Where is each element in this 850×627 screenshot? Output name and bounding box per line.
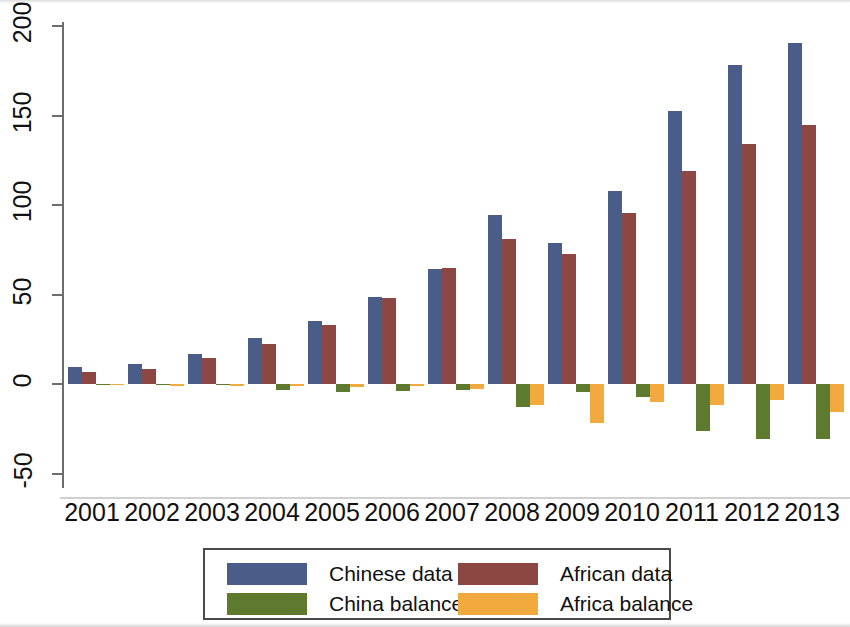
bar-2005-chinese-data <box>308 321 322 384</box>
bar-2012-chinese-data <box>728 65 742 384</box>
scan-artifact-bottom <box>0 623 850 627</box>
x-axis-label-2004: 2004 <box>242 498 302 527</box>
bar-2002-chinese-data <box>128 364 142 384</box>
bar-2002-china-balance <box>156 384 170 385</box>
legend-label-africa-balance: Africa balance <box>560 592 693 616</box>
plot-area <box>62 18 842 488</box>
zero-baseline <box>64 383 844 384</box>
bar-2013-african-data <box>802 125 816 384</box>
bar-2011-africa-balance <box>710 384 724 405</box>
bar-2013-africa-balance <box>830 384 844 412</box>
bar-2011-african-data <box>682 171 696 384</box>
bar-2011-chinese-data <box>668 111 682 384</box>
legend-item-china-balance: China balance <box>227 592 463 616</box>
bar-2003-chinese-data <box>188 354 202 384</box>
bar-2006-africa-balance <box>410 384 424 386</box>
x-axis-label-2007: 2007 <box>422 498 482 527</box>
bar-2004-africa-balance <box>290 384 304 386</box>
legend-item-africa-balance: Africa balance <box>458 592 693 616</box>
bar-2008-chinese-data <box>488 215 502 384</box>
legend-item-chinese-data: Chinese data <box>227 562 453 586</box>
bar-2001-chinese-data <box>68 367 82 384</box>
legend-label-african-data: African data <box>560 562 672 586</box>
bar-2012-africa-balance <box>770 384 784 400</box>
bar-2006-chinese-data <box>368 297 382 384</box>
bar-2002-africa-balance <box>170 384 184 386</box>
x-axis-label-2009: 2009 <box>542 498 602 527</box>
bar-2007-china-balance <box>456 384 470 390</box>
x-axis-label-2005: 2005 <box>302 498 362 527</box>
bar-2005-china-balance <box>336 384 350 392</box>
bar-2003-african-data <box>202 358 216 384</box>
legend-swatch-africa-balance <box>458 593 538 615</box>
bar-2001-africa-balance <box>110 384 124 385</box>
y-axis-tick-label: 50 <box>0 277 46 306</box>
bar-chart: -50050100150200 200120022003200420052006… <box>0 0 850 627</box>
legend-label-china-balance: China balance <box>329 592 463 616</box>
bar-2003-africa-balance <box>230 384 244 386</box>
x-axis-label-2001: 2001 <box>62 498 122 527</box>
bar-2010-china-balance <box>636 384 650 397</box>
bar-2009-china-balance <box>576 384 590 392</box>
bar-2006-china-balance <box>396 384 410 391</box>
bar-2012-african-data <box>742 144 756 384</box>
bar-2007-africa-balance <box>470 384 484 389</box>
bar-2010-africa-balance <box>650 384 664 402</box>
chart-legend: Chinese data African data China balance … <box>203 548 671 620</box>
scan-artifact-top <box>0 0 850 3</box>
legend-swatch-china-balance <box>227 593 307 615</box>
bar-2008-africa-balance <box>530 384 544 405</box>
bar-2001-china-balance <box>96 384 110 385</box>
bar-2012-china-balance <box>756 384 770 439</box>
legend-swatch-african-data <box>458 563 538 585</box>
x-axis-label-2011: 2011 <box>662 498 722 527</box>
y-axis-tick-label: 100 <box>0 187 46 216</box>
x-axis-label-2008: 2008 <box>482 498 542 527</box>
bar-2010-african-data <box>622 213 636 384</box>
bar-2005-african-data <box>322 325 336 384</box>
legend-item-african-data: African data <box>458 562 672 586</box>
bar-2002-african-data <box>142 369 156 384</box>
x-axis-label-2006: 2006 <box>362 498 422 527</box>
x-axis-label-2013: 2013 <box>782 498 842 527</box>
y-axis-tick-label: 0 <box>0 366 46 395</box>
bar-2010-chinese-data <box>608 191 622 384</box>
bar-2006-african-data <box>382 298 396 384</box>
bar-2004-african-data <box>262 344 276 384</box>
bar-2008-african-data <box>502 239 516 384</box>
x-axis-labels: 2001200220032004200520062007200820092010… <box>62 498 850 534</box>
bar-2009-chinese-data <box>548 243 562 384</box>
bar-2013-chinese-data <box>788 43 802 384</box>
bar-2007-chinese-data <box>428 269 442 384</box>
bar-2004-china-balance <box>276 384 290 390</box>
bar-2003-china-balance <box>216 384 230 385</box>
bar-2007-african-data <box>442 268 456 384</box>
bar-2011-china-balance <box>696 384 710 431</box>
x-axis-label-2010: 2010 <box>602 498 662 527</box>
bar-2004-chinese-data <box>248 338 262 384</box>
bar-2009-africa-balance <box>590 384 604 423</box>
y-axis-tick-label: -50 <box>0 456 46 485</box>
legend-label-chinese-data: Chinese data <box>329 562 453 586</box>
bar-2009-african-data <box>562 254 576 384</box>
y-axis-tick-label: 200 <box>0 8 46 37</box>
bar-2013-china-balance <box>816 384 830 439</box>
y-axis-tick-label: 150 <box>0 98 46 127</box>
legend-swatch-chinese-data <box>227 563 307 585</box>
x-axis-label-2002: 2002 <box>122 498 182 527</box>
bar-2005-africa-balance <box>350 384 364 387</box>
bar-2008-china-balance <box>516 384 530 407</box>
x-axis-label-2012: 2012 <box>722 498 782 527</box>
x-axis-label-2003: 2003 <box>182 498 242 527</box>
